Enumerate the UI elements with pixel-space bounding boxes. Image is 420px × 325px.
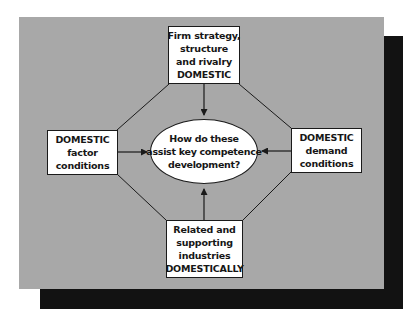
box-line: factor: [67, 146, 98, 159]
demand-conditions-box: DOMESTIC demand conditions: [291, 128, 362, 173]
box-line: Related and: [173, 223, 235, 236]
box-line: DOMESTIC: [55, 133, 109, 146]
box-line: and rivalry: [176, 55, 232, 68]
ellipse-line: How do these: [169, 132, 238, 145]
factor-conditions-box: DOMESTIC factor conditions: [47, 130, 118, 175]
related-industries-box: Related and supporting industries DOMEST…: [166, 220, 243, 278]
ellipse-line: assist key competence: [146, 145, 261, 158]
ellipse-line: development?: [168, 158, 240, 171]
box-line: DOMESTICALLY: [165, 262, 243, 275]
firm-strategy-box: Firm strategy, structure and rivalry DOM…: [168, 26, 240, 84]
box-line: industries: [179, 249, 231, 262]
box-line: DOMESTIC: [177, 68, 231, 81]
box-line: supporting: [176, 236, 233, 249]
box-line: conditions: [300, 157, 354, 170]
box-line: demand: [306, 144, 348, 157]
box-line: DOMESTIC: [299, 131, 353, 144]
center-question-ellipse: How do these assist key competence devel…: [150, 119, 258, 184]
box-line: Firm strategy,: [168, 29, 241, 42]
box-line: structure: [180, 42, 228, 55]
box-line: conditions: [56, 159, 110, 172]
